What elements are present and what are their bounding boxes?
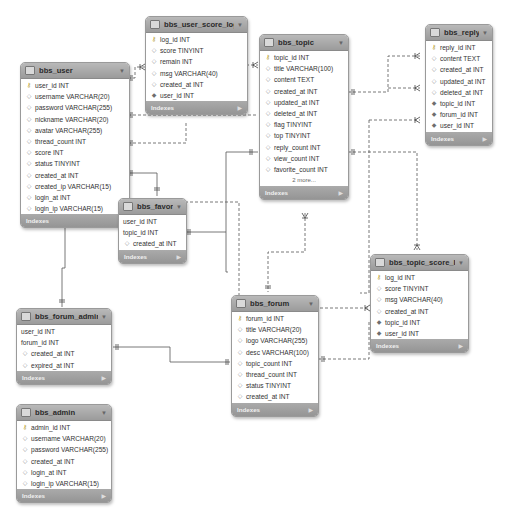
- table-header[interactable]: bbs_forum_admin ▼: [17, 309, 111, 325]
- collapse-chevron-icon[interactable]: ▼: [308, 301, 314, 307]
- expand-arrow-icon[interactable]: ▶: [237, 104, 242, 111]
- column-row[interactable]: ◇top TINYINT: [260, 130, 348, 141]
- column-row[interactable]: ◇created_at INT: [17, 348, 111, 359]
- table-header[interactable]: bbs_topic_score_log ▼: [371, 255, 468, 271]
- column-row[interactable]: ◇password VARCHAR(255): [21, 102, 129, 113]
- indexes-footer[interactable]: Indexes▶: [21, 214, 129, 227]
- column-row[interactable]: ◇created_ip VARCHAR(15): [21, 181, 129, 192]
- column-row[interactable]: ◇status TINYINT: [21, 158, 129, 169]
- indexes-footer[interactable]: Indexes▶: [17, 371, 111, 384]
- column-row[interactable]: ◆topic_id INT: [371, 317, 468, 328]
- column-row[interactable]: user_id INT: [17, 326, 111, 337]
- column-row[interactable]: ◇created_at INT: [260, 86, 348, 97]
- column-row[interactable]: ◆topic_id INT: [426, 98, 492, 109]
- column-row[interactable]: ◇created_at INT: [21, 170, 129, 181]
- table-header[interactable]: bbs_user_score_log ▼: [146, 17, 247, 33]
- column-row[interactable]: ◇view_count INT: [260, 153, 348, 164]
- table-header[interactable]: bbs_user ▼: [21, 63, 129, 79]
- table-bbs-user-score-log[interactable]: bbs_user_score_log ▼ ⚷log_id INT ◇score …: [145, 16, 248, 115]
- column-row[interactable]: user_id INT: [119, 216, 186, 227]
- column-row[interactable]: ◇created_at INT: [146, 79, 247, 90]
- column-row[interactable]: ◇login_ip VARCHAR(15): [21, 203, 129, 214]
- table-bbs-favorite[interactable]: bbs_favorite ▼ user_id INT topic_id INT …: [118, 198, 187, 264]
- column-row[interactable]: ◇expired_at INT: [17, 360, 111, 371]
- column-row[interactable]: ◇thread_count INT: [21, 136, 129, 147]
- indexes-footer[interactable]: Indexes▶: [371, 339, 468, 352]
- column-row[interactable]: ◇thread_count INT: [232, 369, 318, 380]
- column-row[interactable]: ◇score TINYINT: [371, 283, 468, 294]
- table-bbs-forum[interactable]: bbs_forum ▼ ⚷forum_id INT ◇title VARCHAR…: [231, 295, 319, 417]
- column-row[interactable]: ◇login_ip VARCHAR(15): [17, 478, 111, 489]
- column-row[interactable]: ⚷topic_id INT: [260, 52, 348, 63]
- column-row[interactable]: ◇created_at INT: [371, 306, 468, 317]
- table-bbs-topic-score-log[interactable]: bbs_topic_score_log ▼ ⚷log_id INT ◇score…: [370, 254, 469, 353]
- indexes-footer[interactable]: Indexes▶: [426, 132, 492, 145]
- indexes-footer[interactable]: Indexes▶: [260, 186, 348, 199]
- collapse-chevron-icon[interactable]: ▼: [101, 314, 107, 320]
- indexes-footer[interactable]: Indexes▶: [232, 403, 318, 416]
- column-row[interactable]: ◇deleted_at INT: [426, 87, 492, 98]
- column-row[interactable]: ◇remain INT: [146, 56, 247, 67]
- table-bbs-topic[interactable]: bbs_topic ▼ ⚷topic_id INT ◇title VARCHAR…: [259, 34, 349, 200]
- expand-arrow-icon[interactable]: ▶: [308, 406, 313, 413]
- column-row[interactable]: forum_id INT: [17, 337, 111, 348]
- column-row[interactable]: topic_id INT: [119, 227, 186, 238]
- column-row[interactable]: ◇updated_at INT: [426, 76, 492, 87]
- column-row[interactable]: ⚷log_id INT: [371, 272, 468, 283]
- column-row[interactable]: ◇score TINYINT: [146, 45, 247, 56]
- expand-arrow-icon[interactable]: ▶: [482, 135, 487, 142]
- column-row[interactable]: ◆user_id INT: [426, 120, 492, 131]
- column-row[interactable]: ◆user_id INT: [371, 328, 468, 339]
- expand-arrow-icon[interactable]: ▶: [338, 189, 343, 196]
- collapse-chevron-icon[interactable]: ▼: [101, 410, 107, 416]
- indexes-footer[interactable]: Indexes▶: [146, 101, 247, 114]
- column-row[interactable]: ◇deleted_at INT: [260, 108, 348, 119]
- column-row[interactable]: ◇created_at INT: [17, 456, 111, 467]
- column-row[interactable]: ◇content TEXT: [426, 53, 492, 64]
- column-row[interactable]: ◇created_at INT: [232, 391, 318, 402]
- expand-arrow-icon[interactable]: ▶: [176, 253, 181, 260]
- collapse-chevron-icon[interactable]: ▼: [338, 40, 344, 46]
- table-header[interactable]: bbs_reply ▼: [426, 25, 492, 41]
- table-header[interactable]: bbs_forum ▼: [232, 296, 318, 312]
- column-row[interactable]: ◇content TEXT: [260, 74, 348, 85]
- column-row[interactable]: ⚷log_id INT: [146, 34, 247, 45]
- collapse-chevron-icon[interactable]: ▼: [119, 68, 125, 74]
- column-row[interactable]: ◇score INT: [21, 147, 129, 158]
- column-row[interactable]: ◇username VARCHAR(20): [17, 433, 111, 444]
- column-row[interactable]: ◇favorite_count INT: [260, 164, 348, 175]
- collapse-chevron-icon[interactable]: ▼: [458, 260, 464, 266]
- collapse-chevron-icon[interactable]: ▼: [237, 22, 243, 28]
- column-row[interactable]: ◆user_id INT: [146, 90, 247, 101]
- column-row[interactable]: ◇desc VARCHAR(100): [232, 347, 318, 358]
- column-row[interactable]: ◇reply_count INT: [260, 142, 348, 153]
- column-row[interactable]: ⚷forum_id INT: [232, 313, 318, 324]
- table-header[interactable]: bbs_favorite ▼: [119, 199, 186, 215]
- table-header[interactable]: bbs_topic ▼: [260, 35, 348, 51]
- column-row[interactable]: ◇msg VARCHAR(40): [146, 68, 247, 79]
- column-row[interactable]: ◇topic_count INT: [232, 358, 318, 369]
- column-row[interactable]: ⚷admin_id INT: [17, 422, 111, 433]
- table-bbs-reply[interactable]: bbs_reply ▼ ⚷reply_id INT ◇content TEXT …: [425, 24, 493, 146]
- column-row[interactable]: ◇logo VARCHAR(255): [232, 335, 318, 346]
- column-row[interactable]: ◇created_at INT: [426, 64, 492, 75]
- column-row[interactable]: ⚷user_id INT: [21, 80, 129, 91]
- column-row[interactable]: ◇avatar VARCHAR(255): [21, 125, 129, 136]
- table-bbs-forum-admin[interactable]: bbs_forum_admin ▼ user_id INT forum_id I…: [16, 308, 112, 385]
- table-bbs-admin[interactable]: bbs_admin ▼ ⚷admin_id INT ◇username VARC…: [16, 404, 112, 503]
- column-row[interactable]: ◇title VARCHAR(20): [232, 324, 318, 335]
- table-header[interactable]: bbs_admin ▼: [17, 405, 111, 421]
- column-row[interactable]: ◇status TINYINT: [232, 380, 318, 391]
- column-row[interactable]: ◇login_at INT: [21, 192, 129, 203]
- indexes-footer[interactable]: Indexes▶: [17, 489, 111, 502]
- column-row[interactable]: ◇password VARCHAR(255): [17, 444, 111, 455]
- column-row[interactable]: ◇updated_at INT: [260, 97, 348, 108]
- column-row[interactable]: ◇created_at INT: [119, 238, 186, 249]
- column-row[interactable]: ◇msg VARCHAR(40): [371, 294, 468, 305]
- column-row[interactable]: ◇username VARCHAR(20): [21, 91, 129, 102]
- column-row[interactable]: ◇login_at INT: [17, 467, 111, 478]
- expand-arrow-icon[interactable]: ▶: [101, 374, 106, 381]
- more-columns-link[interactable]: 2 more...: [260, 175, 348, 186]
- collapse-chevron-icon[interactable]: ▼: [176, 204, 182, 210]
- column-row[interactable]: ◇nickname VARCHAR(20): [21, 114, 129, 125]
